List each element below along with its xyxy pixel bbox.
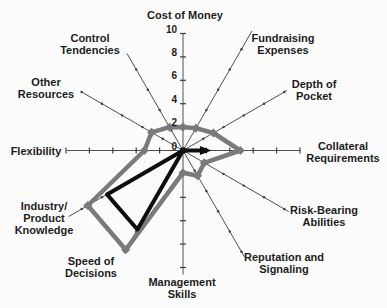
axis-tick-dot — [263, 103, 265, 105]
radar-chart-canvas: 1086420Cost of MoneyFundraisingExpensesD… — [0, 0, 387, 308]
axis-label-line: Collateral — [318, 140, 368, 152]
scale-label-2: 2 — [171, 117, 177, 128]
axis-label-line: Decisions — [65, 267, 117, 279]
scale-label-8: 8 — [171, 47, 177, 58]
scale-label-4: 4 — [171, 94, 177, 105]
axis-tick-dot — [147, 89, 149, 91]
axis-label-line: Other — [31, 76, 61, 88]
axis-tick-dot — [222, 173, 224, 175]
axis-tick-dot — [243, 184, 245, 186]
axis-tick-dot — [202, 138, 204, 140]
axis-label-line: Resources — [18, 88, 74, 100]
axis-spoke-risk-bearing-abilities — [183, 151, 289, 212]
axis-tick-dot — [194, 170, 196, 172]
axis-spoke-other-resources — [81, 92, 183, 151]
axis-label-line: Expenses — [257, 44, 308, 56]
axis-tick-dot — [283, 91, 285, 93]
axis-tick-dot — [240, 48, 242, 50]
axis-tick-dot — [243, 114, 245, 116]
axis-label-collateral-requirements: CollateralRequirements — [306, 140, 379, 164]
axis-tick-dot — [135, 68, 137, 70]
scale-label-6: 6 — [171, 70, 177, 81]
axis-tick-dot — [205, 190, 207, 192]
axis-label-management-skills: ManagementSkills — [148, 276, 216, 300]
series-gray-polygon — [88, 127, 241, 250]
series-black-arrow-triangle-arrowhead — [200, 146, 212, 155]
axis-tick-dot — [101, 196, 103, 198]
scale-label-0: 0 — [171, 141, 177, 152]
series-black-arrow-triangle-center-dot — [180, 147, 186, 153]
axis-tick-dot — [205, 109, 207, 111]
axis-label-cost-of-money: Cost of Money — [147, 9, 224, 21]
axis-spoke-reputation-and-signaling — [183, 151, 245, 258]
axis-label-line: Depth of — [292, 78, 337, 90]
axis-label-speed-of-decisions: Speed ofDecisions — [65, 255, 117, 279]
axis-tick-dot — [229, 230, 231, 232]
axis-tick-dot — [263, 196, 265, 198]
axis-tick-dot — [217, 89, 219, 91]
axis-label-depth-of-pocket: Depth ofPocket — [292, 78, 337, 102]
axis-label-line: Requirements — [306, 152, 379, 164]
axis-label-reputation-and-signaling: Reputation andSignaling — [244, 251, 324, 275]
axis-label-line: Signaling — [259, 263, 309, 275]
axis-label-line: Reputation and — [244, 251, 324, 263]
axis-tick-dot — [121, 114, 123, 116]
axis-label-line: Industry/ — [21, 200, 67, 212]
series-gray-polygon-marker — [178, 123, 187, 132]
axis-tick-dot — [240, 251, 242, 253]
axis-label-line: Tendencies — [60, 44, 120, 56]
axis-tick-dot — [162, 138, 164, 140]
axis-label-line: Risk-Bearing — [290, 204, 358, 216]
axis-label-risk-bearing-abilities: Risk-BearingAbilities — [290, 204, 358, 228]
axis-tick-dot — [217, 210, 219, 212]
axis-tick-dot — [80, 91, 82, 93]
axis-spoke-depth-of-pocket — [183, 91, 287, 151]
axis-label-line: Flexibility — [11, 145, 63, 157]
axis-tick-dot — [222, 126, 224, 128]
axis-label-line: Management — [148, 276, 216, 288]
axis-label-line: Pocket — [296, 90, 332, 102]
axis-tick-dot — [283, 208, 285, 210]
axis-label-other-resources: OtherResources — [18, 76, 74, 100]
axis-label-line: Product — [23, 212, 65, 224]
axis-label-industry-product-knowledge: Industry/ProductKnowledge — [15, 200, 74, 236]
axis-tick-dot — [141, 126, 143, 128]
axis-tick-dot — [80, 208, 82, 210]
axis-label-line: Fundraising — [252, 32, 315, 44]
axis-tick-dot — [158, 109, 160, 111]
scale-label-10: 10 — [166, 24, 178, 35]
axis-label-line: Abilities — [303, 216, 346, 228]
axis-label-line: Speed of — [68, 255, 115, 267]
axis-tick-dot — [101, 103, 103, 105]
axis-label-line: Knowledge — [15, 224, 74, 236]
axis-label-line: Skills — [168, 288, 197, 300]
axis-label-control-tendencies: ControlTendencies — [60, 32, 120, 56]
axis-label-fundraising-expenses: FundraisingExpenses — [252, 32, 315, 56]
radar-chart: 1086420Cost of MoneyFundraisingExpensesD… — [0, 0, 387, 308]
axis-label-flexibility: Flexibility — [11, 145, 63, 157]
axis-label-line: Cost of Money — [147, 9, 224, 21]
axis-label-line: Control — [70, 32, 109, 44]
axis-tick-dot — [229, 68, 231, 70]
series-black-arrow-triangle — [107, 151, 206, 230]
